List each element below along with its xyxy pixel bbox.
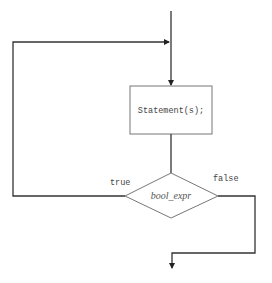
statement-label: Statement(s); [138, 106, 204, 116]
flowchart: Statement(s); bool_expr true false [0, 0, 272, 283]
true-label: true [110, 178, 130, 188]
condition-label: bool_expr [151, 190, 192, 201]
false-label: false [213, 174, 239, 184]
